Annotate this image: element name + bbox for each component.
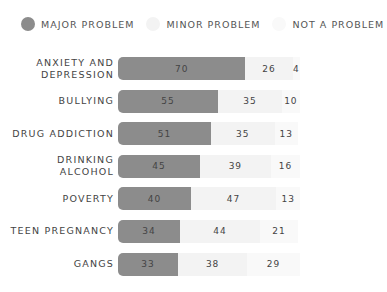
minor-segment: 39 bbox=[200, 155, 271, 178]
legend-swatch-minor-icon bbox=[146, 17, 160, 31]
chart-row: GANGS333829 bbox=[0, 253, 351, 276]
stacked-bar: 344421 bbox=[118, 220, 300, 243]
minor-segment: 35 bbox=[218, 90, 282, 113]
chart-legend: MAJOR PROBLEM MINOR PROBLEM NOT A PROBLE… bbox=[21, 14, 387, 34]
stacked-bar-chart: ANXIETY AND DEPRESSION70264BULLYING55351… bbox=[0, 57, 351, 285]
legend-item-major: MAJOR PROBLEM bbox=[21, 17, 134, 31]
category-label: ANXIETY AND DEPRESSION bbox=[36, 57, 114, 81]
legend-label: MINOR PROBLEM bbox=[166, 19, 260, 30]
chart-row: BULLYING553510 bbox=[0, 90, 351, 113]
category-label: BULLYING bbox=[59, 95, 114, 107]
minor-segment: 47 bbox=[191, 187, 277, 210]
legend-swatch-major-icon bbox=[21, 17, 35, 31]
category-label: DRINKING ALCOHOL bbox=[0, 154, 114, 178]
stacked-bar: 513513 bbox=[118, 122, 300, 145]
stacked-bar: 453916 bbox=[118, 155, 300, 178]
legend-label: NOT A PROBLEM bbox=[292, 19, 384, 30]
major-segment: 40 bbox=[118, 187, 191, 210]
not-a-problem-segment: 21 bbox=[260, 220, 298, 243]
category-label: TEEN PREGNANCY bbox=[11, 225, 114, 237]
chart-row: TEEN PREGNANCY344421 bbox=[0, 220, 351, 243]
category-label: GANGS bbox=[74, 258, 114, 270]
legend-item-not: NOT A PROBLEM bbox=[272, 17, 384, 31]
category-label: DRUG ADDICTION bbox=[12, 128, 114, 140]
chart-row: POVERTY404713 bbox=[0, 187, 351, 210]
legend-swatch-not-icon bbox=[272, 17, 286, 31]
legend-label: MAJOR PROBLEM bbox=[41, 19, 134, 30]
major-segment: 33 bbox=[118, 253, 178, 276]
major-segment: 51 bbox=[118, 122, 211, 145]
not-a-problem-segment: 13 bbox=[275, 122, 299, 145]
major-segment: 45 bbox=[118, 155, 200, 178]
stacked-bar: 553510 bbox=[118, 90, 300, 113]
major-segment: 55 bbox=[118, 90, 218, 113]
minor-segment: 44 bbox=[180, 220, 260, 243]
chart-row: DRINKING ALCOHOL453916 bbox=[0, 155, 351, 178]
major-segment: 70 bbox=[118, 57, 245, 80]
stacked-bar: 404713 bbox=[118, 187, 300, 210]
minor-segment: 26 bbox=[245, 57, 292, 80]
chart-row: ANXIETY AND DEPRESSION70264 bbox=[0, 57, 351, 80]
minor-segment: 35 bbox=[211, 122, 275, 145]
stacked-bar: 70264 bbox=[118, 57, 300, 80]
not-a-problem-segment: 16 bbox=[271, 155, 300, 178]
not-a-problem-segment: 10 bbox=[282, 90, 300, 113]
not-a-problem-segment: 29 bbox=[247, 253, 300, 276]
minor-segment: 38 bbox=[178, 253, 247, 276]
category-label: POVERTY bbox=[63, 193, 114, 205]
not-a-problem-segment: 13 bbox=[276, 187, 300, 210]
major-segment: 34 bbox=[118, 220, 180, 243]
chart-row: DRUG ADDICTION513513 bbox=[0, 122, 351, 145]
legend-item-minor: MINOR PROBLEM bbox=[146, 17, 260, 31]
stacked-bar: 333829 bbox=[118, 253, 300, 276]
not-a-problem-segment: 4 bbox=[293, 57, 300, 80]
